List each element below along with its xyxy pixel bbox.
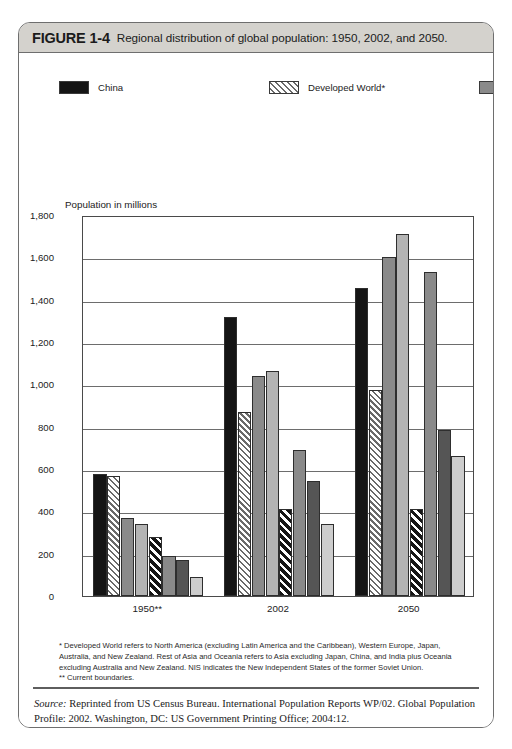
figure-title-bar: FIGURE 1-4 Regional distribution of glob… bbox=[19, 23, 493, 53]
x-axis-group-label: 2050 bbox=[398, 603, 420, 614]
y-axis-tick-label: 800 bbox=[18, 422, 54, 433]
figure-number-label: FIGURE 1-4 bbox=[32, 30, 110, 46]
y-axis-tick-label: 200 bbox=[18, 549, 54, 560]
x-axis-group-label: 1950** bbox=[133, 603, 162, 614]
y-axis-tick-label: 1,400 bbox=[18, 295, 54, 306]
plot-wrapper: Population in millions 02004006008001,00… bbox=[19, 53, 494, 473]
source-text: Reprinted from US Census Bureau. Interna… bbox=[34, 698, 475, 724]
figure-container: FIGURE 1-4 Regional distribution of glob… bbox=[18, 22, 494, 728]
y-axis-tick-label: 1,600 bbox=[18, 252, 54, 263]
figure-source: Source: Reprinted from US Census Bureau.… bbox=[34, 696, 480, 726]
figure-title-text: Regional distribution of global populati… bbox=[117, 31, 448, 44]
source-divider bbox=[33, 687, 479, 689]
x-axis-group-label: 2002 bbox=[267, 603, 289, 614]
y-axis-tick-layer: 02004006008001,0001,2001,4001,6001,800 bbox=[82, 216, 474, 597]
y-axis-tick-label: 1,000 bbox=[18, 379, 54, 390]
footnote-line-2: ** Current boundaries. bbox=[59, 673, 463, 684]
y-axis-tick-label: 1,800 bbox=[18, 210, 54, 221]
figure-footnote: * Developed World refers to North Americ… bbox=[59, 641, 463, 684]
footnote-line-1: * Developed World refers to North Americ… bbox=[59, 641, 463, 673]
figure-body: ChinaDeveloped World*IndiaRest of Asia a… bbox=[19, 53, 493, 727]
source-label: Source: bbox=[34, 698, 67, 709]
y-axis-tick-label: 400 bbox=[18, 506, 54, 517]
y-axis-title: Population in millions bbox=[65, 199, 157, 210]
y-axis-tick-label: 600 bbox=[18, 464, 54, 475]
y-axis-tick-label: 0 bbox=[18, 591, 54, 602]
y-axis-tick-label: 1,200 bbox=[18, 337, 54, 348]
